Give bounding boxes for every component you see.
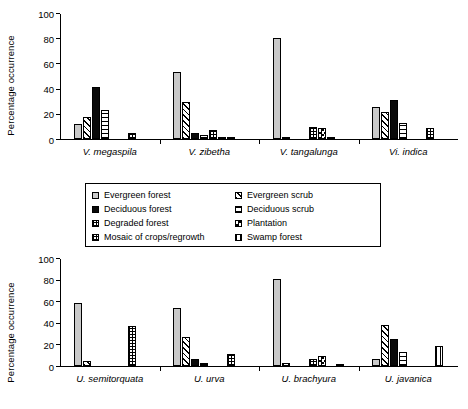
bar-mosaic <box>327 137 335 139</box>
bar-evergreen-scrub <box>83 117 91 140</box>
bar-evergreen-forest <box>74 303 82 366</box>
deciduous-scrub-swatch-icon <box>235 206 242 213</box>
legend-item-degraded-forest: Degraded forest <box>92 216 231 230</box>
bar-evergreen-forest <box>273 38 281 139</box>
y-tick <box>56 344 60 345</box>
legend-label: Degraded forest <box>104 219 169 228</box>
legend-label: Plantation <box>247 219 287 228</box>
bar-evergreen-forest <box>273 279 281 366</box>
category-label: Vi. indica <box>389 146 427 157</box>
legend-label: Deciduous scrub <box>247 205 314 214</box>
bar-series-container-top <box>60 14 458 139</box>
bar-deciduous-scrub <box>200 363 208 366</box>
bar-swamp-forest <box>336 364 344 366</box>
bar-swamp-forest <box>435 346 443 366</box>
y-tick <box>56 323 60 324</box>
bar-deciduous-forest <box>92 87 100 139</box>
bar-evergreen-scrub <box>182 337 190 366</box>
legend-label: Evergreen forest <box>104 191 171 200</box>
y-tick-label: 80 <box>43 34 54 44</box>
y-tick <box>56 301 60 302</box>
y-tick <box>56 114 60 115</box>
category-label: U. brachyura <box>282 373 336 384</box>
bar-deciduous-scrub <box>200 135 208 139</box>
y-tick <box>56 89 60 90</box>
bar-deciduous-scrub <box>399 123 407 139</box>
bar-deciduous-forest <box>390 100 398 139</box>
y-tick <box>56 280 60 281</box>
y-tick-label: 40 <box>43 319 54 329</box>
bar-mosaic <box>426 128 434 139</box>
bar-deciduous-scrub <box>399 352 407 366</box>
evergreen-scrub-swatch-icon <box>235 192 242 199</box>
legend-label: Swamp forest <box>247 233 302 242</box>
legend-item-plantation: Plantation <box>235 216 374 230</box>
chart-panel-top: Percentage occurrence 020406080100 V. me… <box>0 0 468 170</box>
legend-item-swamp-forest: Swamp forest <box>235 230 374 244</box>
legend-label: Evergreen scrub <box>247 191 313 200</box>
legend-item-evergreen-forest: Evergreen forest <box>92 188 231 202</box>
plot-area-top: 020406080100 <box>60 14 458 140</box>
y-tick-label: 60 <box>43 297 54 307</box>
bar-deciduous-forest <box>191 359 199 366</box>
y-tick-label: 60 <box>43 60 54 70</box>
bar-evergreen-scrub <box>282 137 290 139</box>
bar-evergreen-scrub <box>381 325 389 366</box>
bar-evergreen-forest <box>74 124 82 139</box>
y-axis-label-bottom: Percentage occurrence <box>2 255 18 409</box>
y-tick-label: 20 <box>43 110 54 120</box>
bar-degraded-forest <box>309 359 317 366</box>
bar-plantation <box>218 137 226 139</box>
y-axis-label-top: Percentage occurrence <box>2 0 18 170</box>
y-tick <box>56 366 60 367</box>
bar-mosaic <box>128 326 136 366</box>
bar-degraded-forest <box>209 130 217 139</box>
bar-series-container-bottom <box>60 259 458 366</box>
category-label: U. javanica <box>385 373 432 384</box>
plantation-swatch-icon <box>235 220 242 227</box>
figure-bar-charts: Percentage occurrence 020406080100 V. me… <box>0 0 468 409</box>
x-group-separator <box>259 367 260 371</box>
legend-item-deciduous-forest: Deciduous forest <box>92 202 231 216</box>
bar-mosaic <box>128 133 136 139</box>
legend-items: Evergreen forestEvergreen scrubDeciduous… <box>92 188 374 244</box>
bar-evergreen-scrub <box>83 361 91 366</box>
bar-mosaic <box>227 354 235 366</box>
bar-deciduous-forest <box>191 133 199 139</box>
y-tick <box>56 63 60 64</box>
category-label: V. megaspila <box>83 146 137 157</box>
y-tick-label: 0 <box>49 362 54 372</box>
category-label: V. zibetha <box>188 146 230 157</box>
deciduous-forest-swatch-icon <box>92 206 99 213</box>
category-label: U. urva <box>194 373 225 384</box>
y-tick-label: 40 <box>43 85 54 95</box>
x-group-separator <box>359 140 360 144</box>
x-group-separator <box>259 140 260 144</box>
y-tick-label: 20 <box>43 341 54 351</box>
bar-evergreen-forest <box>173 308 181 366</box>
legend-label: Deciduous forest <box>104 205 172 214</box>
bar-mosaic <box>227 137 235 140</box>
degraded-forest-swatch-icon <box>92 220 99 227</box>
evergreen-forest-swatch-icon <box>92 192 99 199</box>
legend-label: Mosaic of crops/regrowth <box>104 233 205 242</box>
y-tick-label: 100 <box>38 254 54 264</box>
y-tick <box>56 13 60 14</box>
mosaic-swatch-icon <box>92 234 99 241</box>
bar-deciduous-scrub <box>101 110 109 139</box>
bar-plantation <box>318 128 326 139</box>
bar-evergreen-forest <box>372 359 380 366</box>
x-group-separator <box>359 367 360 371</box>
y-tick <box>56 38 60 39</box>
legend-item-evergreen-scrub: Evergreen scrub <box>235 188 374 202</box>
bar-degraded-forest <box>309 127 317 140</box>
bar-evergreen-forest <box>173 72 181 140</box>
y-tick-label: 100 <box>38 9 54 19</box>
x-group-separator <box>160 140 161 144</box>
chart-panel-bottom: Percentage occurrence 020406080100 U. se… <box>0 255 468 409</box>
bar-evergreen-scrub <box>182 102 190 140</box>
y-tick-label: 0 <box>49 135 54 145</box>
category-label: U. semitorquata <box>76 373 143 384</box>
category-label: V. tangalunga <box>280 146 338 157</box>
y-tick-label: 80 <box>43 276 54 286</box>
